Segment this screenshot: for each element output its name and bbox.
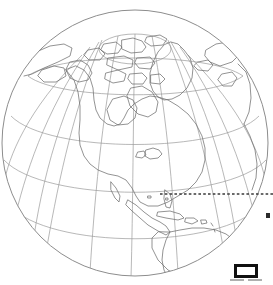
globe-svg [0,0,273,285]
reference-point-marker [266,213,270,218]
monitor-icon[interactable] [230,266,262,281]
globe-figure [0,0,273,285]
